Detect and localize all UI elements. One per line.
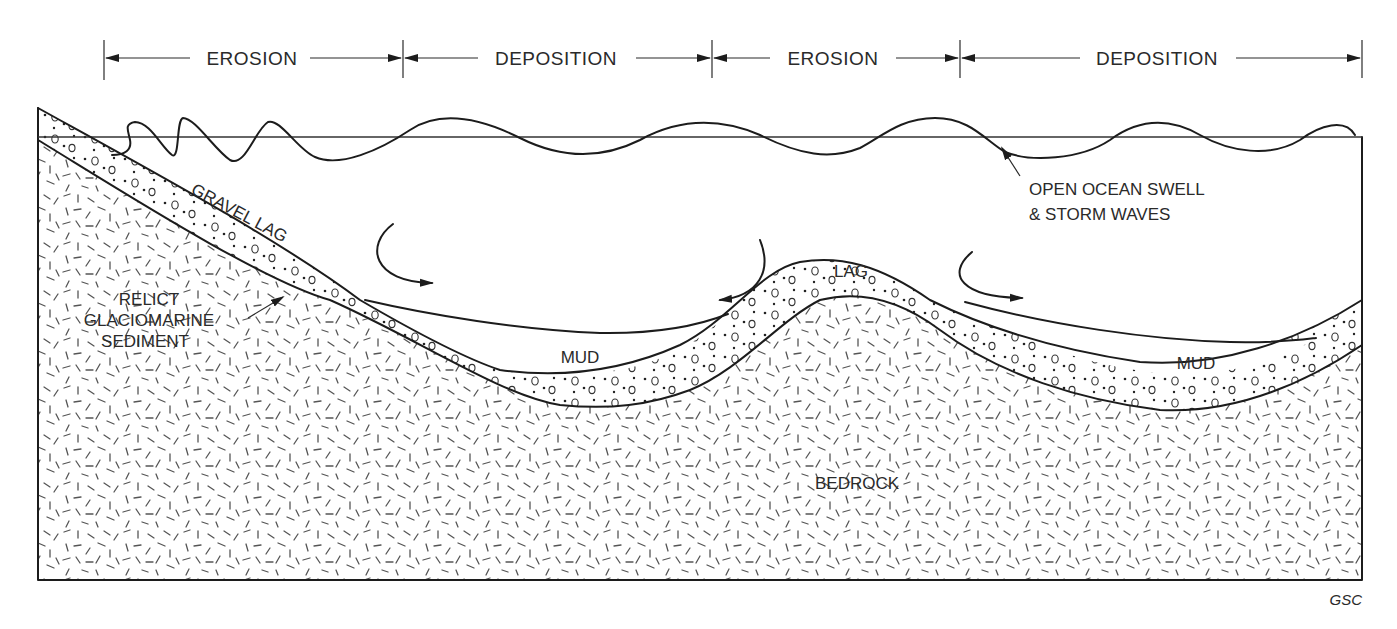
zone-header: EROSION DEPOSITION EROSION DEPOSITION (104, 40, 1362, 80)
zone-label-deposition-2: DEPOSITION (1096, 48, 1218, 69)
label-lag: LAG (834, 262, 868, 281)
relict-line-1: RELICT (119, 290, 179, 309)
wave-pointer-arrow-icon (1002, 148, 1020, 176)
label-open-ocean-swell: OPEN OCEAN SWELL & STORM WAVES (1029, 180, 1205, 224)
zone-label-erosion-1: EROSION (206, 48, 297, 69)
current-arrow-icon (960, 252, 1022, 298)
credit-gsc: GSC (1329, 591, 1362, 608)
zone-label-deposition-1: DEPOSITION (495, 48, 617, 69)
label-mud-left: MUD (561, 348, 600, 367)
wave-profile (112, 118, 1355, 161)
label-mud-right: MUD (1177, 354, 1216, 373)
waves-line-1: OPEN OCEAN SWELL (1029, 180, 1205, 199)
current-arrow-icon (377, 224, 432, 283)
label-bedrock: BEDROCK (815, 474, 900, 493)
relict-line-2: GLACIOMARINE (84, 311, 214, 330)
zone-label-erosion-2: EROSION (787, 48, 878, 69)
relict-line-3: SEDIMENT (101, 332, 189, 351)
cross-section-diagram: EROSION DEPOSITION EROSION DEPOSITION GR… (0, 0, 1397, 629)
waves-line-2: & STORM WAVES (1029, 205, 1170, 224)
